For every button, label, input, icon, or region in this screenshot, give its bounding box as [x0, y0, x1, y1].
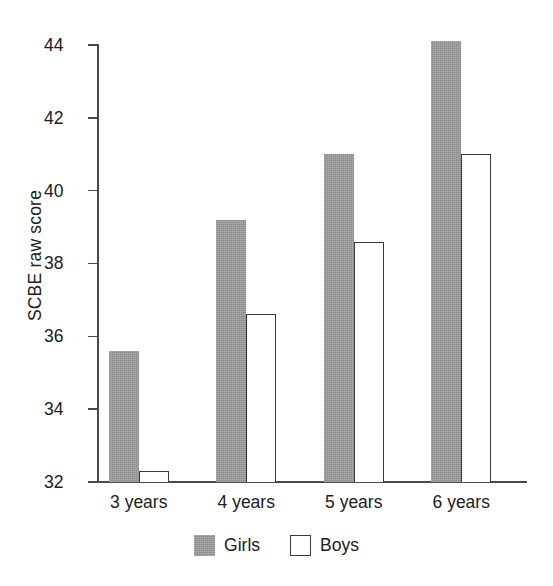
x-tick-label: 6 years [406, 492, 516, 513]
bar-chart-figure: SCBE raw score 32343638404244 3 years4 y… [0, 0, 553, 586]
bar-boys-4-years [246, 314, 276, 482]
x-tick-label: 4 years [191, 492, 301, 513]
x-tick-label: 3 years [84, 492, 194, 513]
legend-label: Girls [224, 535, 260, 556]
legend-entry-girls: Girls [194, 535, 260, 556]
legend-entry-boys: Boys [290, 535, 359, 556]
y-tick-label: 44 [44, 34, 63, 55]
y-tick-label: 40 [44, 180, 63, 201]
bar-boys-3-years [139, 471, 169, 482]
y-axis-title: SCBE raw score [25, 146, 46, 366]
chart-legend: GirlsBoys [0, 535, 553, 556]
bar-girls-3-years [109, 351, 139, 482]
y-tick-label: 36 [44, 326, 63, 347]
bar-boys-6-years [461, 154, 491, 482]
bar-girls-6-years [431, 41, 461, 482]
bar-girls-5-years [324, 154, 354, 482]
y-tick-label: 38 [44, 253, 63, 274]
y-tick-label: 34 [44, 399, 63, 420]
plot-area [97, 45, 527, 482]
x-tick-label: 5 years [299, 492, 409, 513]
bar-girls-4-years [216, 220, 246, 482]
bar-boys-5-years [354, 242, 384, 482]
legend-label: Boys [320, 535, 359, 556]
legend-swatch-boys-icon [290, 535, 311, 556]
y-tick-label: 32 [44, 471, 63, 492]
y-tick-label: 42 [44, 107, 63, 128]
legend-swatch-girls-icon [194, 535, 215, 556]
